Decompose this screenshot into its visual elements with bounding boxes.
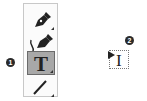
tools-panel: T (23, 3, 58, 97)
line-tool-button[interactable] (27, 76, 55, 98)
type-cursor-area: I (109, 50, 129, 69)
type-tool-button[interactable]: T (27, 51, 55, 75)
submenu-indicator-icon (51, 27, 54, 30)
submenu-indicator-icon (50, 70, 53, 73)
callout-badge-2: 2 (125, 36, 134, 45)
type-t-icon: T (34, 52, 48, 77)
arrow-pointer-icon (108, 51, 116, 60)
callout-badge-1: 1 (6, 58, 15, 67)
i-beam-cursor-icon: I (116, 51, 122, 71)
pen-tool-button[interactable] (27, 9, 55, 31)
submenu-indicator-icon (51, 94, 54, 97)
